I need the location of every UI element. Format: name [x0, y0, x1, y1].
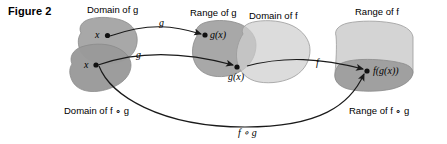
label-domain-g: Domain of g [87, 5, 138, 15]
label-point-gx-bottom: g(x) [228, 72, 244, 82]
label-arrow-g-bottom: g [136, 50, 141, 60]
label-point-gx-top: g(x) [210, 30, 226, 40]
point-gx-bottom [234, 64, 239, 69]
point-x-top [105, 33, 110, 38]
label-range-f: Range of f [355, 7, 399, 17]
figure-container: Figure 2 [0, 0, 447, 144]
label-arrow-fog: f ∘ g [238, 128, 257, 138]
point-gx-top [202, 32, 207, 37]
label-range-fog: Range of f ∘ g [349, 106, 409, 116]
label-point-x-bottom: x [84, 60, 88, 70]
label-arrow-g-top: g [159, 18, 164, 28]
label-arrow-f: f [316, 58, 319, 68]
label-point-fgx: f(g(x)) [373, 66, 399, 76]
label-domain-fog: Domain of f ∘ g [64, 106, 129, 116]
region-domain-fog [70, 44, 131, 91]
label-range-g: Range of g [190, 8, 236, 18]
label-domain-f: Domain of f [249, 11, 298, 21]
region-domain-f [236, 21, 310, 83]
label-point-x-top: x [95, 30, 99, 40]
point-x-bottom [93, 62, 98, 67]
point-fgx [364, 68, 369, 73]
